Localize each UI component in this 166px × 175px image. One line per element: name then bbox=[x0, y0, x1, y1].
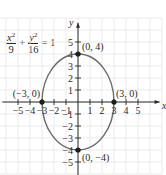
point-marker bbox=[39, 99, 44, 104]
x-tick-label: −3 bbox=[37, 105, 48, 116]
y-tick-label: −4 bbox=[62, 145, 73, 156]
x-tick-label: −5 bbox=[13, 105, 24, 116]
x-tick-label: −4 bbox=[25, 105, 36, 116]
x-tick-label: −2 bbox=[49, 105, 60, 116]
y-tick-label: −3 bbox=[62, 133, 73, 144]
point-label: (−3, 0) bbox=[13, 88, 40, 100]
y-tick-label: 2 bbox=[68, 73, 73, 84]
x-axis-label: x bbox=[161, 100, 166, 111]
point-label: (0, −4) bbox=[82, 152, 109, 164]
x-tick-label: 5 bbox=[136, 105, 141, 116]
y-tick-label: 5 bbox=[68, 37, 73, 48]
y-tick-label: −1 bbox=[62, 109, 73, 120]
y-axis-label: y bbox=[68, 17, 74, 28]
y-tick-label: −2 bbox=[62, 121, 73, 132]
x-tick-label: 4 bbox=[124, 105, 129, 116]
y-tick-label: 3 bbox=[68, 61, 73, 72]
x-tick-label: 3 bbox=[112, 105, 117, 116]
point-label: (3, 0) bbox=[116, 88, 138, 100]
y-tick-label: −5 bbox=[62, 157, 73, 168]
y-tick-label: 1 bbox=[68, 85, 73, 96]
x-tick-label: 1 bbox=[88, 105, 93, 116]
point-marker bbox=[75, 147, 80, 152]
x-axis-arrow-icon bbox=[155, 100, 160, 104]
point-label: (0, 4) bbox=[82, 41, 104, 53]
ellipse-chart: xy −5−4−3−2−112345−5−4−3−2−112345 (0, 4)… bbox=[0, 0, 166, 175]
y-tick-label: 4 bbox=[68, 49, 73, 60]
point-marker bbox=[75, 51, 80, 56]
point-marker bbox=[111, 99, 116, 104]
y-axis-arrow-icon bbox=[76, 23, 80, 28]
x-tick-label: 2 bbox=[100, 105, 105, 116]
